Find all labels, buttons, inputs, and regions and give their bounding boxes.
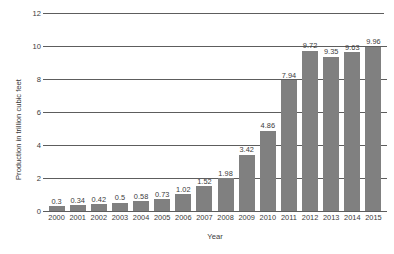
y-tick-mark-12 [43,13,46,14]
x-tick-label-2014: 2014 [344,214,360,221]
bar-value-label-2011: 7.94 [282,72,296,79]
bar-2014[interactable]: 9.632014 [344,52,360,211]
y-tick-mark-right-6 [384,112,387,113]
bar-2005[interactable]: 0.732005 [154,199,170,211]
y-tick-mark-10 [43,46,46,47]
bar-2015[interactable]: 9.962015 [365,47,381,211]
x-tick-label-2000: 2000 [48,214,64,221]
x-tick-label-2008: 2008 [217,214,233,221]
plot-area: 0246810120.320000.3420010.4220020.520030… [46,13,384,211]
y-tick-mark-right-4 [384,145,387,146]
y-tick-mark-right-2 [384,178,387,179]
bar-value-label-2009: 3.42 [239,146,253,153]
bar-value-label-2015: 9.96 [366,38,380,45]
bar-2001[interactable]: 0.342001 [70,205,86,211]
y-axis-title: Production in trillion cubic feet [14,50,23,210]
bar-2003[interactable]: 0.52003 [112,203,128,211]
x-tick-label-2009: 2009 [238,214,254,221]
bar-2006[interactable]: 1.022006 [175,194,191,211]
x-tick-label-2005: 2005 [154,214,170,221]
bar-value-label-2014: 9.63 [345,44,359,51]
y-tick-mark-4 [43,145,46,146]
y-tick-mark-0 [43,211,46,212]
bar-value-label-2003: 0.5 [115,194,125,201]
bar-value-label-2007: 1.52 [197,178,211,185]
y-tick-label-0: 0 [37,207,41,216]
bar-2008[interactable]: 1.982008 [218,178,234,211]
y-tick-mark-6 [43,112,46,113]
bar-2011[interactable]: 7.942011 [281,80,297,211]
bar-2012[interactable]: 9.722012 [302,51,318,211]
x-tick-label-2013: 2013 [323,214,339,221]
y-tick-mark-right-8 [384,79,387,80]
y-tick-label-8: 8 [37,75,41,84]
bar-value-label-2012: 9.72 [303,42,317,49]
y-tick-mark-8 [43,79,46,80]
x-tick-label-2015: 2015 [365,214,381,221]
y-tick-label-12: 12 [33,9,41,18]
bar-2002[interactable]: 0.422002 [91,204,107,211]
bar-2010[interactable]: 4.862010 [260,131,276,211]
y-tick-mark-2 [43,178,46,179]
bar-value-label-2002: 0.42 [92,196,106,203]
bar-2013[interactable]: 9.352013 [323,57,339,211]
x-tick-label-2011: 2011 [281,214,297,221]
x-tick-label-2012: 2012 [302,214,318,221]
y-tick-label-6: 6 [37,108,41,117]
bar-value-label-2008: 1.98 [218,170,232,177]
bar-value-label-2004: 0.58 [134,193,148,200]
x-tick-label-2007: 2007 [196,214,212,221]
bar-value-label-2010: 4.86 [261,122,275,129]
x-axis-title: Year [46,232,384,241]
x-tick-label-2001: 2001 [69,214,85,221]
x-tick-label-2003: 2003 [112,214,128,221]
bar-value-label-2005: 0.73 [155,191,169,198]
bar-value-label-2000: 0.3 [51,198,61,205]
x-tick-label-2004: 2004 [133,214,149,221]
bar-value-label-2013: 9.35 [324,48,338,55]
y-tick-mark-right-0 [384,211,387,212]
y-tick-mark-right-10 [384,46,387,47]
y-tick-label-2: 2 [37,174,41,183]
y-tick-label-10: 10 [33,42,41,51]
bar-value-label-2006: 1.02 [176,186,190,193]
bar-2000[interactable]: 0.32000 [49,206,65,211]
x-tick-label-2010: 2010 [260,214,276,221]
x-tick-label-2006: 2006 [175,214,191,221]
bar-chart: Production in trillion cubic feet 024681… [0,0,394,254]
bar-2009[interactable]: 3.422009 [239,155,255,211]
bar-2007[interactable]: 1.522007 [196,186,212,211]
bar-2004[interactable]: 0.582004 [133,201,149,211]
y-tick-label-4: 4 [37,141,41,150]
bar-value-label-2001: 0.34 [70,197,84,204]
gridline-12 [46,13,384,14]
x-tick-label-2002: 2002 [91,214,107,221]
chart-title [28,0,378,2]
